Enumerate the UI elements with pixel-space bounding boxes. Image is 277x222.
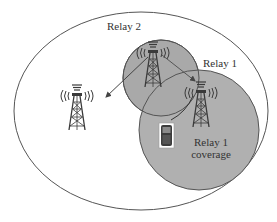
relay-1-coverage-area: [139, 70, 259, 190]
relay-1-label: Relay 1: [203, 57, 237, 69]
relay-1-coverage-label-line1: Relay 1: [188, 136, 234, 148]
relay-2-label: Relay 2: [107, 20, 141, 32]
relay-1-coverage-label: Relay 1 coverage: [188, 136, 234, 160]
diagram-canvas: [0, 0, 277, 222]
relay-coverage-diagram: Relay 2 Relay 1 Relay 1 coverage: [0, 0, 277, 222]
relay-1-coverage-label-line2: coverage: [188, 148, 234, 160]
mobile-phone-icon: [159, 123, 174, 148]
